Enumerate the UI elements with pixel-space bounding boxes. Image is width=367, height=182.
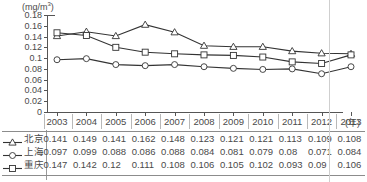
legend-entry-北京	[3, 134, 23, 145]
table-cell: 0.121	[220, 133, 248, 144]
data-point-marker	[54, 57, 60, 63]
data-point-marker	[319, 71, 325, 77]
data-point-marker	[172, 51, 178, 57]
data-point-marker	[113, 44, 119, 50]
table-cell: 0.123	[191, 133, 219, 144]
table-bottom-rule	[2, 175, 365, 176]
y-axis-tick-label: 0.04	[24, 86, 42, 95]
legend-entry-重庆	[3, 160, 23, 171]
table-cell: 0.081	[220, 146, 248, 157]
year-column-separator	[101, 114, 102, 129]
data-point-marker	[172, 62, 178, 68]
data-point-marker	[54, 30, 60, 36]
data-point-marker	[201, 64, 207, 70]
data-point-marker	[319, 61, 325, 67]
x-axis-year-labels: 2003200420052006200720082009201020112012…	[47, 114, 343, 129]
data-point-marker	[289, 59, 295, 65]
table-cell: 0.111	[132, 159, 160, 170]
table-cell: 0.121	[249, 133, 277, 144]
table-row-label: 上海	[24, 146, 44, 157]
y-axis-tick-label: 0.08	[24, 65, 42, 74]
data-point-marker	[289, 66, 295, 72]
year-column-separator	[72, 114, 73, 129]
year-column-separator	[336, 114, 337, 129]
y-axis-tick-label: 0.18	[24, 11, 42, 20]
table-cell: 0.093	[279, 159, 307, 170]
scan-artifact-line	[329, 0, 330, 182]
y-axis-tick-label: 0.1	[29, 54, 42, 63]
table-cell: 0.105	[220, 159, 248, 170]
data-point-marker	[10, 153, 16, 159]
table-cell: 0.149	[73, 133, 101, 144]
year-column-separator	[248, 114, 249, 129]
legend-marker-square	[3, 163, 23, 174]
data-point-marker	[201, 52, 207, 58]
table-cell: 0.141	[44, 133, 72, 144]
table-cell: 0.141	[102, 133, 130, 144]
year-column-separator	[44, 114, 45, 129]
table-cell: 0.079	[249, 146, 277, 157]
x-axis-year-label: 2003	[43, 116, 71, 127]
y-axis-tick-label: 0.06	[24, 76, 42, 85]
year-column-separator	[131, 114, 132, 129]
x-axis-year-label: 2008	[190, 116, 218, 127]
table-cell: 0.106	[338, 159, 366, 170]
data-point-marker	[83, 32, 89, 38]
legend-entry-上海	[3, 147, 23, 158]
x-axis-unit-label: (年)	[345, 116, 360, 129]
x-axis-year-label: 2005	[102, 116, 130, 127]
data-point-marker	[348, 52, 354, 58]
table-cell: 0.106	[191, 159, 219, 170]
y-axis-tick-label: 0	[37, 108, 42, 117]
table-cell: 0.086	[132, 146, 160, 157]
x-axis-year-label: 2006	[131, 116, 159, 127]
table-cell: 0.102	[249, 159, 277, 170]
table-cell: 0.109	[308, 133, 336, 144]
data-point-marker	[348, 64, 354, 70]
table-row-label: 北京	[24, 133, 44, 144]
year-column-separator	[160, 114, 161, 129]
table-cell: 0.088	[102, 146, 130, 157]
data-point-marker	[260, 66, 266, 72]
data-point-marker	[83, 56, 89, 62]
series-triangle	[53, 21, 354, 56]
y-axis-tick-label: 0.12	[24, 43, 42, 52]
data-point-marker	[10, 166, 16, 172]
x-axis-year-label: 2004	[72, 116, 100, 127]
table-cell: 0.08	[279, 146, 307, 157]
table-cell: 0.097	[44, 146, 72, 157]
table-cell: 0.148	[161, 133, 189, 144]
x-axis-year-label: 2010	[249, 116, 277, 127]
y-axis-tick-label: 0.02	[24, 97, 42, 106]
table-cell: 0.108	[161, 159, 189, 170]
y-axis-tick-label: 0.16	[24, 22, 42, 31]
table-cell: 0.088	[161, 146, 189, 157]
series-circle	[54, 56, 354, 77]
x-axis-year-label: 2009	[219, 116, 247, 127]
table-cell: 0.099	[73, 146, 101, 157]
y-axis-unit-close: )	[51, 2, 54, 12]
y-axis-tick-label: 0.14	[24, 33, 42, 42]
year-column-separator	[219, 114, 220, 129]
data-point-marker	[200, 42, 207, 48]
table-cell: 0.142	[73, 159, 101, 170]
table-cell: 0.113	[279, 133, 307, 144]
x-axis-year-label: 2012	[308, 116, 336, 127]
data-point-marker	[230, 65, 236, 71]
table-top-rule	[2, 131, 365, 132]
table-cell: 0.084	[191, 146, 219, 157]
table-cell: 0.12	[102, 159, 130, 170]
year-column-separator	[189, 114, 190, 129]
table-cell: 0.147	[44, 159, 72, 170]
table-cell: 0.09	[308, 159, 336, 170]
data-point-marker	[142, 21, 149, 27]
table-cell: 0.108	[338, 133, 366, 144]
data-point-marker	[113, 62, 119, 68]
data-point-marker	[142, 49, 148, 55]
data-table: 北京0.1410.1490.1410.1620.1480.1230.1210.1…	[2, 130, 365, 180]
table-cell: 0.084	[338, 146, 366, 157]
table-cell: 0.071	[308, 146, 336, 157]
data-point-marker	[260, 54, 266, 60]
x-axis-year-label: 2011	[278, 116, 306, 127]
plot-area: 0.180.160.140.120.10.080.060.040.020	[47, 15, 343, 113]
